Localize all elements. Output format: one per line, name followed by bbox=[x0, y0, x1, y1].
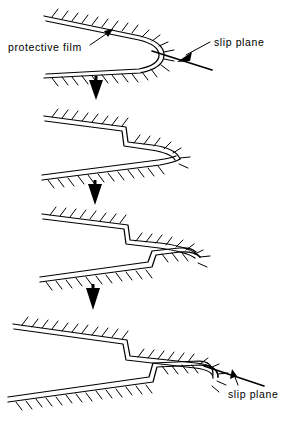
stage-3-tip-hatching bbox=[198, 256, 210, 267]
slip-plane-callout-bottom: slip plane bbox=[228, 369, 278, 400]
progression-arrow-3-head bbox=[86, 288, 100, 310]
film-outer-line bbox=[40, 252, 200, 282]
protective-film-arrowhead bbox=[104, 29, 113, 37]
stage-1-lower-hatching bbox=[52, 69, 157, 86]
stage-4-group bbox=[8, 317, 264, 410]
slip-plane-top-arrowhead bbox=[177, 52, 192, 62]
film-inner-line bbox=[43, 219, 195, 258]
progression-arrow-1-stem bbox=[95, 76, 98, 82]
protective-film-callout: protective film bbox=[8, 29, 113, 53]
stage-4-upper-hatching bbox=[22, 317, 219, 368]
stage-4-lower-hatching bbox=[16, 365, 198, 410]
stage-3-lower-film bbox=[40, 248, 200, 282]
slip-plane-callout-top: slip plane bbox=[177, 36, 264, 62]
progression-arrow-3-stem bbox=[92, 284, 95, 290]
slip-plane-bottom-arrowhead bbox=[230, 369, 237, 379]
progression-arrow-2 bbox=[88, 180, 102, 205]
progression-arrow-3 bbox=[86, 284, 100, 310]
stage-3-upper-film bbox=[42, 214, 200, 258]
crack-growth-diagram: protective film slip plane bbox=[0, 0, 299, 423]
stage-2-group bbox=[42, 109, 190, 188]
figure-root: protective film slip plane bbox=[0, 0, 299, 423]
film-outer-line bbox=[44, 116, 180, 159]
slip-plane-top-leader bbox=[186, 42, 210, 55]
progression-arrow-1 bbox=[89, 76, 103, 100]
progression-arrow-2-head bbox=[88, 184, 102, 205]
stage-3-group bbox=[40, 207, 210, 290]
stage-2-tip-hatching bbox=[179, 157, 190, 168]
slip-plane-top-label: slip plane bbox=[214, 36, 264, 48]
progression-arrow-2-stem bbox=[94, 180, 97, 186]
slip-plane-bottom-label: slip plane bbox=[228, 388, 278, 400]
protective-film-label: protective film bbox=[8, 41, 82, 53]
stage-4-tip-hatching bbox=[212, 373, 228, 392]
film-inner-line bbox=[40, 248, 196, 277]
film-inner-line bbox=[45, 121, 175, 160]
progression-arrow-1-head bbox=[89, 80, 103, 100]
